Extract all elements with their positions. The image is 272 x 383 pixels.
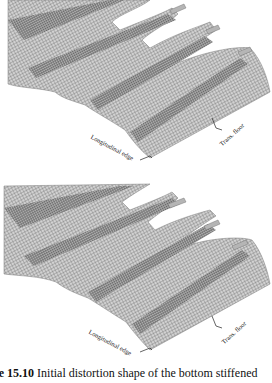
figure-number: ure 15.10 [0, 366, 34, 380]
mesh-plot-top: Longitudinal edge Trans. floor [0, 0, 272, 180]
figure: Longitudinal edge Trans. floor Longitudi… [0, 0, 272, 383]
figure-caption: ure 15.10 Initial distortion shape of th… [0, 366, 272, 381]
mesh-plot-bottom: Longitudinal edge Trans. floor [0, 180, 272, 360]
distortion-mesh-top [0, 0, 272, 180]
caption-text: Initial distortion shape of the bottom s… [34, 366, 257, 380]
